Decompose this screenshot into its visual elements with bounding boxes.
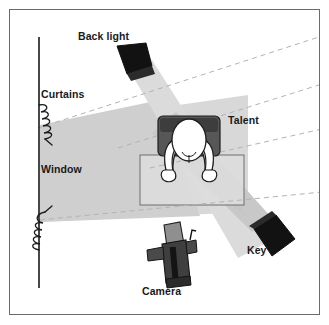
label-window: Window bbox=[41, 164, 82, 175]
talent-hand-left bbox=[161, 170, 176, 182]
label-back-light: Back light bbox=[78, 31, 129, 42]
camera-arm-right bbox=[186, 240, 197, 254]
desk-rectangle bbox=[140, 155, 244, 205]
back-light-fixture bbox=[117, 43, 155, 81]
camera-arm-right-hook bbox=[190, 230, 196, 240]
label-camera: Camera bbox=[142, 286, 181, 297]
diagram-page: Back light Curtains Window Talent Key Ca… bbox=[0, 0, 329, 325]
camera-icon bbox=[147, 222, 197, 288]
label-talent: Talent bbox=[228, 115, 259, 126]
camera-arm-left bbox=[147, 247, 164, 261]
label-key: Key bbox=[247, 245, 267, 256]
talent-head bbox=[172, 119, 206, 161]
talent-hand-right bbox=[202, 170, 217, 182]
label-curtains: Curtains bbox=[41, 89, 84, 100]
